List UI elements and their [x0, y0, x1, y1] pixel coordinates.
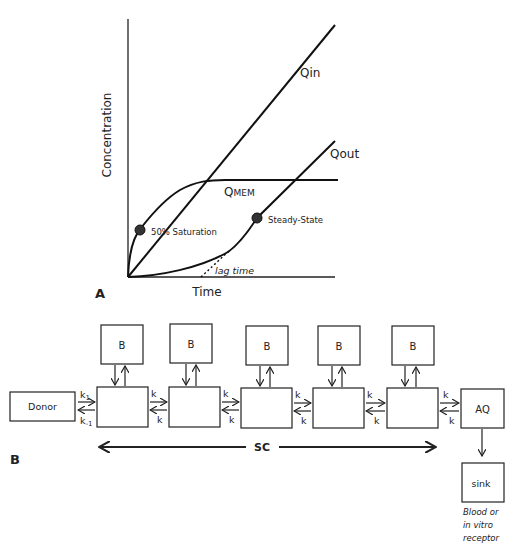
- qmem-sub: MEM: [233, 188, 254, 198]
- reservoir-b-5: B: [392, 326, 434, 365]
- aq-compartment: AQ: [461, 389, 504, 428]
- qin-curve: [128, 25, 335, 277]
- qmem-q: Q: [224, 185, 233, 199]
- panel-a-label: A: [95, 286, 105, 301]
- svg-text:k: k: [223, 388, 229, 399]
- qout-curve: [128, 141, 335, 277]
- sc-label: SC: [254, 441, 270, 454]
- svg-text:AQ: AQ: [475, 404, 490, 415]
- diagram-canvas: Qin Qout QMEM 50% Saturation Steady-Stat…: [0, 0, 515, 549]
- sc-compartment-4: [313, 388, 364, 428]
- k-exchange-2-3: k k: [222, 388, 239, 425]
- sc-compartment-5: [387, 388, 438, 428]
- lag-time-label: lag time: [215, 265, 254, 276]
- svg-text:Donor: Donor: [28, 401, 57, 412]
- y-axis-label: Concentration: [100, 93, 114, 178]
- sink-compartment: sink: [462, 463, 504, 502]
- svg-text:k: k: [295, 389, 301, 400]
- svg-text:k: k: [229, 414, 235, 425]
- k-exchange-1-2: k k: [150, 388, 167, 425]
- k-exchange-5-aq: k k: [440, 389, 459, 426]
- sc-compartment-2: [169, 387, 220, 427]
- donor-compartment: Donor: [10, 392, 75, 421]
- steady-state-label: Steady-State: [268, 215, 323, 225]
- svg-text:B: B: [264, 341, 271, 352]
- qin-label: Qin: [300, 66, 320, 80]
- qmem-label: QMEM: [224, 185, 255, 199]
- reservoir-b-3: B: [246, 326, 288, 365]
- svg-text:k: k: [151, 388, 157, 399]
- reservoir-b-2: B: [170, 324, 212, 363]
- svg-text:k: k: [157, 414, 163, 425]
- sink-caption: Blood or in vitro receptor: [463, 507, 501, 543]
- qout-label: Qout: [330, 147, 359, 161]
- panel-a-chart: Qin Qout QMEM 50% Saturation Steady-Stat…: [95, 19, 359, 301]
- panel-b-label: B: [10, 452, 20, 467]
- reservoir-b-4: B: [318, 326, 360, 365]
- k1-label: k1: [80, 389, 90, 402]
- sc-span-arrow: SC: [99, 441, 436, 454]
- svg-text:B: B: [188, 339, 195, 350]
- saturation-label: 50% Saturation: [151, 227, 217, 237]
- reservoir-b-1: B: [101, 325, 143, 364]
- svg-text:k: k: [367, 389, 373, 400]
- k-minus1-label: k-1: [80, 415, 93, 428]
- saturation-marker: [135, 225, 145, 235]
- svg-text:B: B: [410, 341, 417, 352]
- svg-text:k: k: [443, 389, 449, 400]
- svg-text:B: B: [336, 341, 343, 352]
- sc-compartment-1: [97, 387, 148, 427]
- svg-text:k: k: [374, 415, 380, 426]
- steady-state-marker: [252, 213, 262, 223]
- sc-compartment-3: [241, 388, 292, 428]
- svg-text:sink: sink: [471, 478, 491, 489]
- panel-b-diagram: B Donor k1 k-1 B B: [10, 324, 504, 543]
- svg-text:k: k: [301, 415, 307, 426]
- k-exchange-4-5: k k: [366, 389, 385, 426]
- svg-text:k: k: [449, 415, 455, 426]
- x-axis-label: Time: [191, 285, 221, 299]
- k-exchange-3-4: k k: [294, 389, 311, 426]
- svg-text:B: B: [119, 340, 126, 351]
